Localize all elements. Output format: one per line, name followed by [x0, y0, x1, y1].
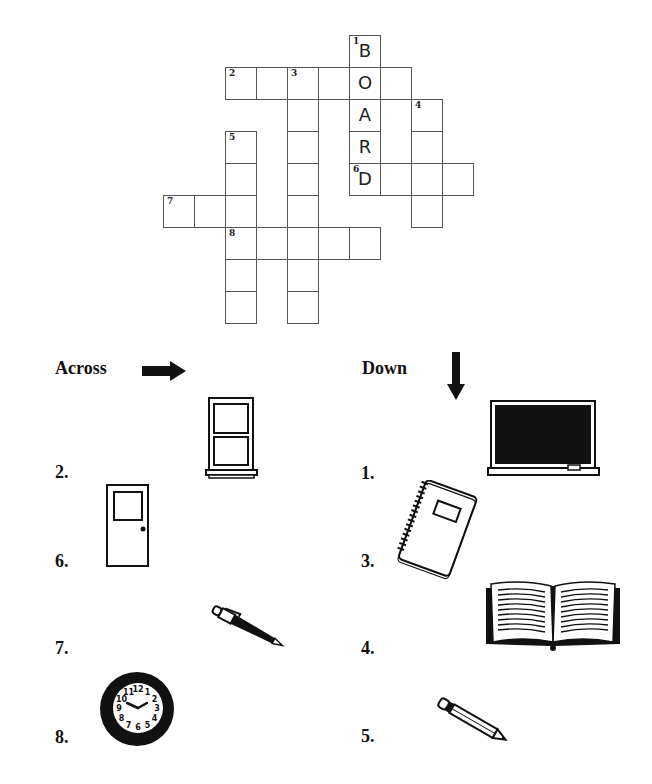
clock-numeral: 11 [123, 688, 135, 697]
crossword-cell[interactable]: 4 [411, 99, 443, 132]
crossword-cell[interactable] [225, 291, 257, 324]
crossword-cell[interactable] [411, 131, 443, 164]
crossword-cell[interactable] [287, 227, 319, 260]
cell-letter: A [350, 106, 380, 124]
clue-number: 5 [229, 133, 235, 142]
crossword-cell[interactable] [411, 163, 443, 196]
cell-letter: R [350, 138, 380, 156]
clock-numeral: 5 [145, 721, 151, 730]
clock-numeral: 9 [116, 704, 122, 713]
down-heading: Down [362, 358, 407, 379]
clue-number: 4 [415, 101, 421, 110]
crossword-cell[interactable]: 3 [287, 67, 319, 100]
clock-numeral: 8 [119, 714, 125, 723]
crossword-grid: 1B23OA45R6D78 [0, 0, 652, 340]
crossword-cell[interactable] [287, 195, 319, 228]
notebook-icon [392, 480, 482, 580]
crossword-cell[interactable]: 8 [225, 227, 257, 260]
crossword-cell[interactable] [442, 163, 474, 196]
crossword-cell[interactable] [318, 67, 350, 100]
arrow-right-icon [140, 360, 188, 382]
across-clue-7-label: 7. [55, 638, 69, 659]
crossword-cell[interactable] [256, 67, 288, 100]
crossword-cell[interactable]: 5 [225, 131, 257, 164]
crossword-cell[interactable] [287, 163, 319, 196]
crossword-cell[interactable] [225, 259, 257, 292]
crossword-cell[interactable] [287, 259, 319, 292]
window-icon [205, 396, 259, 480]
cell-letter: O [350, 74, 380, 92]
across-clue-8-label: 8. [55, 727, 69, 748]
clue-number: 2 [229, 69, 235, 78]
clock-icon: 121234567891011 [98, 670, 176, 748]
crossword-cell[interactable]: 1B [349, 35, 381, 68]
crossword-cell[interactable]: 2 [225, 67, 257, 100]
crossword-cell[interactable] [287, 99, 319, 132]
down-clue-4-label: 4. [361, 638, 375, 659]
clock-numeral: 7 [126, 721, 132, 730]
crossword-cell[interactable] [380, 163, 412, 196]
cell-letter: B [350, 42, 380, 60]
pencil-icon [430, 695, 516, 749]
down-clue-5-label: 5. [361, 726, 375, 747]
arrow-down-icon [446, 351, 466, 401]
crossword-cell[interactable] [380, 67, 412, 100]
crossword-cell[interactable] [256, 227, 288, 260]
crossword-cell[interactable] [225, 195, 257, 228]
clue-number: 8 [229, 229, 235, 238]
clock-numeral: 12 [132, 685, 143, 694]
crossword-cell[interactable] [318, 227, 350, 260]
pen-icon [204, 603, 290, 655]
door-icon [105, 483, 151, 569]
crossword-cell[interactable] [349, 227, 381, 260]
cell-letter: D [350, 170, 380, 188]
across-heading: Across [55, 358, 107, 379]
crossword-cell[interactable] [287, 131, 319, 164]
clock-numeral: 1 [145, 688, 151, 697]
clock-numeral: 6 [135, 723, 141, 732]
across-clue-2-label: 2. [55, 462, 69, 483]
clock-numeral: 4 [152, 714, 158, 723]
crossword-cell[interactable]: R [349, 131, 381, 164]
book-icon [483, 578, 623, 656]
down-clue-1-label: 1. [361, 463, 375, 484]
crossword-cell[interactable]: A [349, 99, 381, 132]
chalkboard-icon [486, 399, 602, 479]
clock-numeral: 3 [154, 704, 160, 713]
crossword-cell[interactable]: 6D [349, 163, 381, 196]
clue-number: 7 [167, 197, 173, 206]
crossword-cell[interactable]: O [349, 67, 381, 100]
clue-number: 3 [291, 69, 297, 78]
down-clue-3-label: 3. [361, 551, 375, 572]
across-clue-6-label: 6. [55, 551, 69, 572]
crossword-cell[interactable] [194, 195, 226, 228]
crossword-cell[interactable]: 7 [163, 195, 195, 228]
clock-numeral: 2 [152, 695, 158, 704]
crossword-cell[interactable] [287, 291, 319, 324]
crossword-cell[interactable] [411, 195, 443, 228]
crossword-cell[interactable] [225, 163, 257, 196]
